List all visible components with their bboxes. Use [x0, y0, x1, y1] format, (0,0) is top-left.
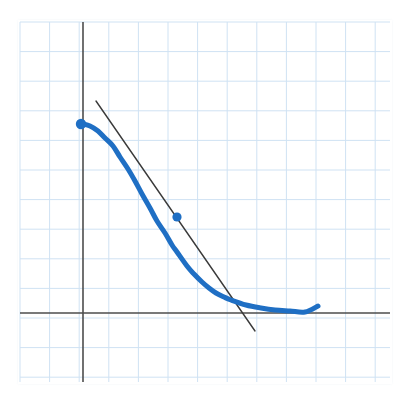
graph-figure	[0, 0, 411, 396]
curve-start-point	[76, 119, 86, 129]
tangency-point	[172, 212, 181, 221]
paper-background	[18, 20, 392, 384]
plot-canvas	[0, 0, 411, 396]
